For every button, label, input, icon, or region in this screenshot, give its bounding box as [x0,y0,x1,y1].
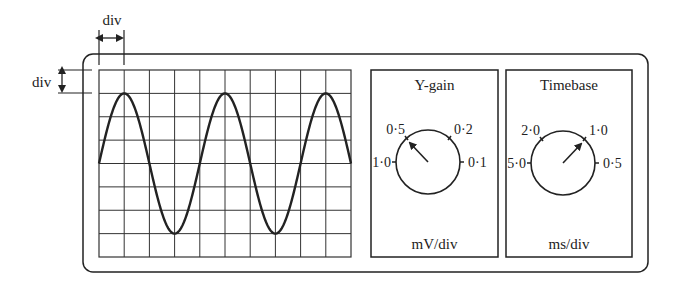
timebase-knob[interactable] [527,131,599,195]
timebase-setting-label: 0·5 [603,156,622,171]
timebase-setting-label: 2·0 [521,123,540,138]
ygain-unit: mV/div [412,236,458,252]
ygain-setting-label: 0·2 [454,122,473,137]
ygain-needle-arrow-icon [410,143,428,162]
ygain-setting-label: 1·0 [372,155,391,170]
timebase-setting-label: 5·0 [507,156,526,171]
timebase-title: Timebase [540,77,598,93]
horizontal-div-label: div [102,12,122,28]
ygain-setting-label: 0·5 [386,122,405,137]
ygain-setting-label: 0·1 [468,155,487,170]
timebase-panel: Timebase ms/div 5·0 2·0 1·0 0·5 [506,70,632,257]
ygain-panel: Y-gain mV/div 1·0 0·5 0·2 0·1 [371,70,498,257]
timebase-unit: ms/div [549,236,590,252]
ygain-title: Y-gain [415,77,455,93]
oscilloscope-diagram: div div Y-gain mV/div 1·0 0·5 0·2 0·1 Ti… [0,0,680,287]
timebase-setting-label: 1·0 [589,123,608,138]
timebase-needle-arrow-icon [563,144,581,163]
ygain-knob[interactable] [392,130,464,194]
screen-grid [99,70,351,257]
horizontal-div-annotation: div [99,12,124,65]
vertical-div-label: div [32,74,52,90]
